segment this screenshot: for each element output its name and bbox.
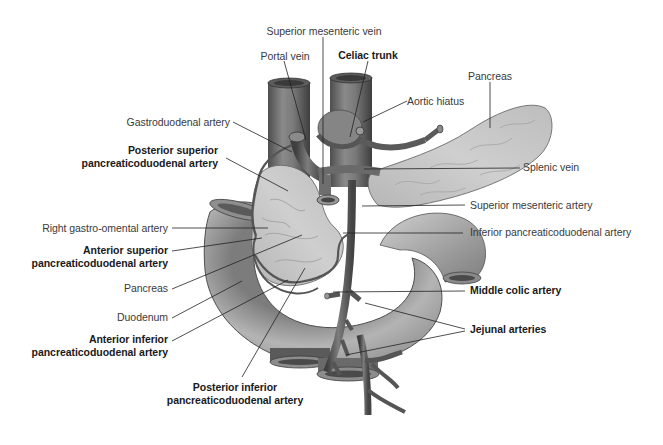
label-splenic-vein: Splenic vein [523, 161, 579, 174]
label-line: pancreaticoduodenal artery [160, 394, 310, 407]
label-jejunal-arteries: Jejunal arteries [470, 323, 546, 336]
label-posterior-inferior-pd-artery: Posterior inferior pancreaticoduodenal a… [160, 381, 310, 406]
anatomy-diagram: Superior mesenteric vein Portal vein Cel… [0, 0, 663, 445]
label-pancreas-tail: Pancreas [462, 70, 518, 83]
label-aortic-hiatus: Aortic hiatus [407, 95, 464, 108]
label-right-gastro-omental-artery: Right gastro-omental artery [20, 222, 168, 235]
label-line: Posterior superior [60, 144, 218, 157]
label-pancreas-head: Pancreas [20, 282, 168, 295]
label-superior-mesenteric-artery: Superior mesenteric artery [470, 199, 592, 212]
label-inferior-pd-artery: Inferior pancreaticoduodenal artery [470, 226, 631, 239]
label-celiac-trunk: Celiac trunk [335, 49, 401, 62]
label-anterior-inferior-pd-artery: Anterior inferior pancreaticoduodenal ar… [20, 333, 168, 358]
label-line: pancreaticoduodenal artery [60, 157, 218, 170]
label-duodenum: Duodenum [20, 311, 168, 324]
label-line: Posterior inferior [160, 381, 310, 394]
label-line: Anterior superior [20, 244, 168, 257]
label-line: Anterior inferior [20, 333, 168, 346]
label-middle-colic-artery: Middle colic artery [470, 284, 561, 297]
label-posterior-superior-pd-artery: Posterior superior pancreaticoduodenal a… [60, 144, 218, 169]
label-line: pancreaticoduodenal artery [20, 257, 168, 270]
label-anterior-superior-pd-artery: Anterior superior pancreaticoduodenal ar… [20, 244, 168, 269]
label-portal-vein: Portal vein [255, 50, 315, 63]
celiac-trunk-shape [318, 110, 443, 148]
label-superior-mesenteric-vein: Superior mesenteric vein [262, 25, 386, 38]
label-gastroduodenal-artery: Gastroduodenal artery [60, 116, 230, 129]
pancreas-tail-shape [368, 105, 552, 207]
label-line: pancreaticoduodenal artery [20, 346, 168, 359]
